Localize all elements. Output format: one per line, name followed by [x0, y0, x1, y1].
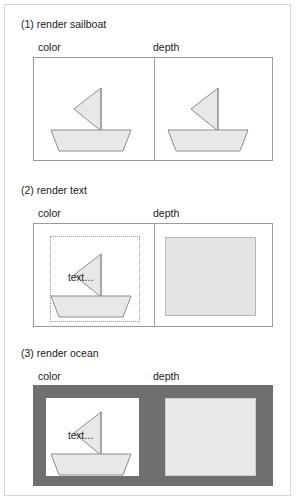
hull-shape [51, 130, 131, 151]
panel-color-text[interactable]: text… [34, 224, 154, 326]
sail-shape [74, 88, 101, 131]
column-label-depth: depth [153, 370, 179, 382]
section-title: (3) render ocean [21, 347, 99, 359]
panel-color-ocean[interactable]: text… [34, 386, 154, 485]
depth-fill-rect [165, 237, 256, 316]
hull-shape [51, 454, 131, 475]
hull-shape [168, 130, 248, 151]
sailboat-drawing-depth [154, 58, 272, 160]
column-label-color: color [38, 370, 61, 382]
depth-fill-rect [165, 398, 256, 476]
panel-depth-text[interactable] [154, 224, 272, 326]
panel-pair-ocean: text… [33, 385, 273, 486]
column-label-color: color [38, 207, 61, 219]
sailboat-drawing-color [34, 58, 154, 160]
text-overlay-label: text… [68, 430, 94, 441]
section-title: (2) render text [21, 184, 87, 196]
sail-shape [191, 88, 218, 131]
figure-frame: (1) render sailboat color depth [4, 4, 291, 496]
panel-pair-text: text… [33, 223, 273, 327]
section-title: (1) render sailboat [21, 18, 106, 30]
panel-depth-sailboat[interactable] [154, 58, 272, 160]
section-render-ocean: (3) render ocean color depth text… [5, 338, 292, 497]
hull-shape [51, 296, 131, 317]
section-render-text: (2) render text color depth text… [5, 173, 292, 338]
column-label-color: color [38, 41, 61, 53]
section-render-sailboat: (1) render sailboat color depth [5, 5, 292, 175]
panel-color-sailboat[interactable] [34, 58, 154, 160]
panel-depth-ocean[interactable] [154, 386, 272, 485]
column-label-depth: depth [153, 41, 179, 53]
panel-pair-sailboat [33, 57, 273, 161]
column-label-depth: depth [153, 207, 179, 219]
text-overlay-label: text… [68, 272, 94, 283]
